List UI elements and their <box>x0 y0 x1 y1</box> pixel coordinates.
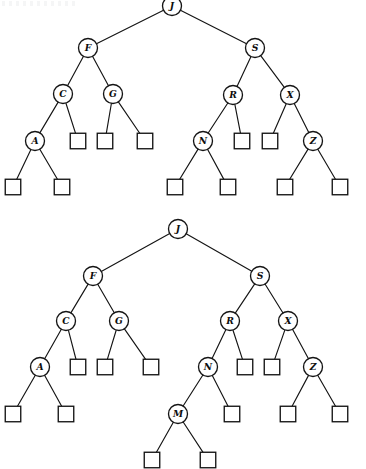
leaf-node-square <box>200 452 216 468</box>
tree-edge <box>156 422 174 454</box>
node-label: Z <box>309 135 317 146</box>
leaf-node-square <box>264 359 280 375</box>
tree-edge <box>107 330 116 361</box>
tree-edge <box>124 328 147 361</box>
leaf-node-square <box>277 179 293 195</box>
tree-edge <box>67 56 84 86</box>
tree-edge <box>17 375 36 408</box>
tree-edge <box>274 329 285 360</box>
tree-node-r: R <box>224 86 243 105</box>
tree-edge <box>106 103 111 134</box>
tree-edge <box>273 103 287 134</box>
tree-edge <box>179 149 199 181</box>
node-label: C <box>59 88 67 99</box>
tree-edge <box>212 375 229 408</box>
node-label: N <box>198 135 208 146</box>
node-label: A <box>30 135 38 146</box>
node-label: G <box>109 88 117 99</box>
leaf-node-square <box>143 359 159 375</box>
tree-edge <box>44 375 62 408</box>
tree-node-z: Z <box>304 358 323 377</box>
leaf-node-square <box>5 406 21 422</box>
binary-tree-figure: JFSCGRXANZ JFSCGRXANZM <box>0 0 366 469</box>
tree-node-j: J <box>169 220 188 239</box>
tree-node-g: G <box>104 85 123 104</box>
tree-edge <box>40 149 59 181</box>
tree-node-s: S <box>251 267 270 286</box>
leaf-node-square <box>280 406 296 422</box>
tree-edge <box>101 233 170 271</box>
tree-edge <box>68 330 76 360</box>
node-label: X <box>283 315 292 326</box>
tree-node-n: N <box>194 132 213 151</box>
node-label: G <box>115 315 123 326</box>
node-label: X <box>285 89 294 100</box>
leaf-node-square <box>220 179 236 195</box>
leaf-node-square <box>224 406 240 422</box>
leaf-node-square <box>137 133 153 149</box>
tree-edge <box>317 375 336 408</box>
tree-edge <box>118 101 141 135</box>
tree-edge <box>207 149 224 181</box>
tree-node-r: R <box>221 312 240 331</box>
tree-node-j: J <box>163 0 182 16</box>
node-label: A <box>35 361 43 372</box>
leaf-node-square <box>70 359 86 375</box>
node-label: S <box>257 270 264 281</box>
tree-upper-internal-nodes: JFSCGRXANZ <box>26 0 323 151</box>
leaf-node-square <box>97 359 113 375</box>
tree-edge <box>71 284 89 314</box>
tree-edge <box>44 329 61 360</box>
tree-edge <box>183 421 204 453</box>
tree-node-x: X <box>281 86 300 105</box>
leaf-node-square <box>332 406 348 422</box>
tree-node-g: G <box>110 312 129 331</box>
tree-lower: JFSCGRXANZM <box>5 220 348 468</box>
tree-node-c: C <box>57 312 76 331</box>
leaf-node-square <box>54 179 70 195</box>
tree-edge <box>66 102 76 134</box>
node-label: C <box>62 315 70 326</box>
tree-edge <box>291 375 308 408</box>
tree-edge <box>16 149 31 180</box>
tree-edge <box>260 55 284 88</box>
tree-node-z: Z <box>304 132 323 151</box>
leaf-node-square <box>70 133 86 149</box>
leaf-node-square <box>58 406 74 422</box>
leaf-node-square <box>332 179 348 195</box>
tree-node-a: A <box>31 358 50 377</box>
tree-edge <box>289 149 309 181</box>
node-label: J <box>174 223 181 234</box>
tree-edge <box>235 283 255 313</box>
node-label: M <box>172 408 184 419</box>
tree-edge <box>318 149 337 181</box>
leaf-node-square <box>144 452 160 468</box>
node-label: R <box>228 89 237 100</box>
tree-node-a: A <box>26 132 45 151</box>
tree-node-c: C <box>54 85 73 104</box>
tree-node-x: X <box>279 312 298 331</box>
node-label: N <box>203 361 213 372</box>
tree-edge <box>183 375 203 407</box>
tree-edge <box>97 284 114 314</box>
tree-edge <box>235 104 241 134</box>
leaf-node-square <box>97 133 113 149</box>
tree-node-m: M <box>169 405 188 424</box>
leaf-node-square <box>167 179 183 195</box>
tree-edge <box>180 10 247 44</box>
tree-edge <box>292 329 309 359</box>
node-label: R <box>225 315 234 326</box>
leaf-node-square <box>262 133 278 149</box>
tree-node-s: S <box>246 39 265 58</box>
tree-lower-internal-nodes: JFSCGRXANZM <box>31 220 323 424</box>
tree-edge <box>186 233 253 271</box>
tree-edge <box>265 284 284 314</box>
node-label: Z <box>309 361 317 372</box>
node-label: S <box>252 42 259 53</box>
node-label: J <box>168 0 175 11</box>
tree-edge <box>237 56 251 87</box>
tree-upper-leaf-nodes <box>5 133 348 195</box>
tree-edge <box>212 329 226 359</box>
tree-upper: JFSCGRXANZ <box>5 0 348 195</box>
tree-edge <box>40 102 59 134</box>
